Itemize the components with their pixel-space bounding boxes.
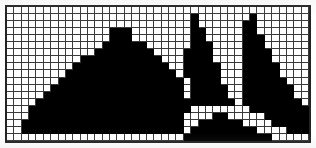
filled-pixel-cell [59,127,66,134]
filled-pixel-cell [199,63,206,70]
empty-pixel-cell [22,42,29,49]
empty-pixel-cell [132,7,139,14]
filled-pixel-cell [184,99,191,106]
empty-pixel-cell [228,7,235,14]
filled-pixel-cell [110,78,117,85]
empty-pixel-cell [265,127,272,134]
filled-pixel-cell [250,63,257,70]
filled-pixel-cell [125,120,132,127]
filled-pixel-cell [176,85,183,92]
empty-pixel-cell [235,35,242,42]
filled-pixel-cell [265,92,272,99]
filled-pixel-cell [110,70,117,77]
empty-pixel-cell [140,134,147,141]
empty-pixel-cell [22,85,29,92]
empty-pixel-cell [169,28,176,35]
filled-pixel-cell [117,56,124,63]
empty-pixel-cell [88,7,95,14]
empty-pixel-cell [184,85,191,92]
empty-pixel-cell [265,14,272,21]
empty-pixel-cell [302,134,309,141]
empty-pixel-cell [199,14,206,21]
filled-pixel-cell [154,106,161,113]
empty-pixel-cell [110,7,117,14]
empty-pixel-cell [51,63,58,70]
empty-pixel-cell [66,134,73,141]
filled-pixel-cell [169,127,176,134]
filled-pixel-cell [95,63,102,70]
empty-pixel-cell [280,7,287,14]
empty-pixel-cell [22,92,29,99]
filled-pixel-cell [147,70,154,77]
filled-pixel-cell [302,106,309,113]
empty-pixel-cell [14,120,21,127]
empty-pixel-cell [22,106,29,113]
filled-pixel-cell [243,92,250,99]
empty-pixel-cell [147,134,154,141]
empty-pixel-cell [280,14,287,21]
empty-pixel-cell [14,49,21,56]
filled-pixel-cell [66,99,73,106]
empty-pixel-cell [243,106,250,113]
empty-pixel-cell [280,134,287,141]
empty-pixel-cell [36,78,43,85]
filled-pixel-cell [280,92,287,99]
empty-pixel-cell [176,42,183,49]
empty-pixel-cell [206,21,213,28]
filled-pixel-cell [117,78,124,85]
filled-pixel-cell [191,63,198,70]
filled-pixel-cell [287,92,294,99]
empty-pixel-cell [221,78,228,85]
filled-pixel-cell [154,63,161,70]
empty-pixel-cell [162,42,169,49]
empty-pixel-cell [81,7,88,14]
filled-pixel-cell [221,120,228,127]
filled-pixel-cell [103,85,110,92]
filled-pixel-cell [257,85,264,92]
filled-pixel-cell [162,78,169,85]
empty-pixel-cell [176,14,183,21]
empty-pixel-cell [36,35,43,42]
empty-pixel-cell [294,35,301,42]
empty-pixel-cell [29,35,36,42]
empty-pixel-cell [95,28,102,35]
filled-pixel-cell [235,127,242,134]
filled-pixel-cell [162,127,169,134]
filled-pixel-cell [265,99,272,106]
filled-pixel-cell [287,85,294,92]
empty-pixel-cell [250,120,257,127]
filled-pixel-cell [176,78,183,85]
filled-pixel-cell [221,99,228,106]
empty-pixel-cell [169,21,176,28]
filled-pixel-cell [294,127,301,134]
filled-pixel-cell [243,28,250,35]
empty-pixel-cell [228,63,235,70]
filled-pixel-cell [59,85,66,92]
filled-pixel-cell [250,99,257,106]
filled-pixel-cell [36,113,43,120]
filled-pixel-cell [162,63,169,70]
filled-pixel-cell [206,63,213,70]
filled-pixel-cell [88,70,95,77]
empty-pixel-cell [44,42,51,49]
empty-pixel-cell [44,134,51,141]
filled-pixel-cell [154,120,161,127]
filled-pixel-cell [199,85,206,92]
empty-pixel-cell [265,120,272,127]
empty-pixel-cell [29,42,36,49]
filled-pixel-cell [176,127,183,134]
empty-pixel-cell [140,21,147,28]
empty-pixel-cell [294,63,301,70]
filled-pixel-cell [272,113,279,120]
empty-pixel-cell [22,28,29,35]
filled-pixel-cell [117,120,124,127]
empty-pixel-cell [44,70,51,77]
filled-pixel-cell [228,99,235,106]
filled-pixel-cell [117,49,124,56]
empty-pixel-cell [51,35,58,42]
filled-pixel-cell [125,56,132,63]
filled-pixel-cell [199,99,206,106]
filled-pixel-cell [66,78,73,85]
empty-pixel-cell [235,49,242,56]
empty-pixel-cell [7,56,14,63]
